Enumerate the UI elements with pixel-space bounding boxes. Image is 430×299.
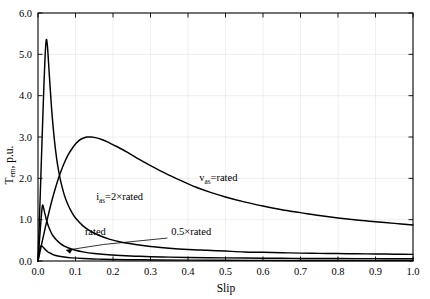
x-tick-label: 0.2	[106, 266, 119, 277]
annotation-v-as-rated: vas=rated	[199, 172, 238, 185]
y-tick-label: 3.0	[19, 132, 32, 143]
y-tick-label: 6.0	[19, 8, 32, 19]
y-tick-label: 2.0	[19, 173, 32, 184]
x-tick-label: 0.1	[69, 266, 82, 277]
y-tick-label: 1.0	[19, 214, 32, 225]
annotation-i-as-2x-rated: ias=2×rated	[96, 191, 144, 204]
chart-figure: 0.00.10.20.30.40.50.60.70.80.91.0 0.01.0…	[0, 0, 430, 299]
torque-slip-plot: 0.00.10.20.30.40.50.60.70.80.91.0 0.01.0…	[0, 0, 430, 299]
x-tick-label: 0.6	[256, 266, 269, 277]
x-tick-labels: 0.00.10.20.30.40.50.60.70.80.91.0	[31, 266, 419, 277]
annotation-half-rated: 0.5×rated	[171, 226, 212, 237]
y-tick-label: 5.0	[19, 49, 32, 60]
x-tick-label: 0.7	[294, 266, 307, 277]
x-tick-label: 1.0	[406, 266, 419, 277]
x-axis-title: Slip	[217, 282, 236, 295]
annotation-rated: rated	[85, 226, 107, 237]
x-tick-label: 0.9	[369, 266, 382, 277]
x-tick-label: 0.4	[181, 266, 195, 277]
x-tick-label: 0.8	[331, 266, 344, 277]
curve-annotations: vas=ratedias=2×ratedrated0.5×rated	[66, 172, 238, 254]
y-tick-label: 0.0	[19, 256, 32, 267]
svg-text:Tem, p.u.: Tem, p.u.	[3, 145, 17, 184]
x-tick-label: 0.0	[31, 266, 44, 277]
x-tick-label: 0.5	[219, 266, 232, 277]
y-tick-label: 4.0	[19, 90, 32, 101]
annotation-leader-line	[66, 238, 167, 250]
y-axis-title: Tem, p.u.	[3, 145, 17, 184]
y-tick-labels: 0.01.02.03.04.05.06.0	[19, 8, 32, 267]
x-tick-label: 0.3	[144, 266, 157, 277]
